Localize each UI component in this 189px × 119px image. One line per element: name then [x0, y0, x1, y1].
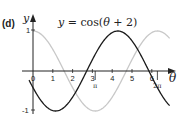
chart-title: y = cos(θ + 2) — [57, 16, 137, 29]
x-tick-label-1: 1 — [51, 74, 55, 83]
x-tick-label-2: 2 — [71, 74, 75, 83]
x-tick-label-4: 4 — [110, 74, 114, 83]
x-tick-label-2pi: 2π — [153, 82, 162, 90]
x-axis-label: θ — [169, 71, 177, 85]
x-tick-label-5: 5 — [130, 74, 134, 83]
x-tick-label-0: 0 — [31, 74, 35, 83]
y-tick-label-minus-1: -1 — [22, 106, 29, 115]
chart: (d) y y = cos(θ + 2) 1 -1 0 1 2 3 4 5 6 … — [0, 0, 189, 119]
panel-label: (d) — [2, 18, 15, 29]
x-tick-label-pi: π — [93, 82, 98, 90]
y-axis-arrow-icon — [30, 14, 36, 22]
y-axis-label: y — [22, 12, 30, 25]
y-tick-label-1: 1 — [26, 26, 30, 35]
